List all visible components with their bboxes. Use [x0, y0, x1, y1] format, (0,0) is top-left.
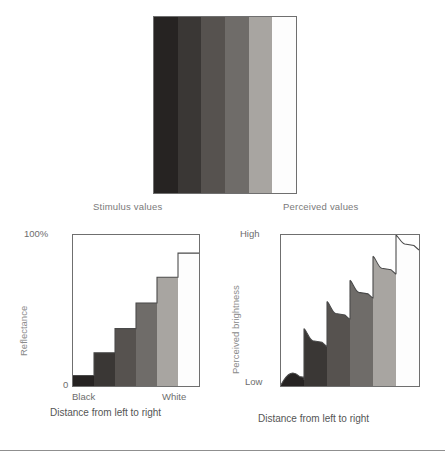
reflectance-x-axis-title: Distance from left to right [50, 407, 161, 418]
reflectance-bar-2 [94, 353, 115, 386]
reflectance-bar-4 [136, 303, 157, 386]
perceived-brightness-svg [281, 235, 419, 386]
reflectance-x-left-label: Black [72, 391, 95, 402]
stimulus-band-1 [154, 17, 178, 193]
stimulus-band-2 [178, 17, 202, 193]
reflectance-plot-area [72, 234, 200, 387]
stimulus-band-4 [225, 17, 249, 193]
caption-stimulus-values: Stimulus values [93, 201, 163, 212]
stimulus-band-5 [249, 17, 273, 193]
stimulus-band-6 [272, 17, 296, 193]
perceived-y-max-label: High [240, 228, 260, 239]
reflectance-step-svg [73, 235, 199, 386]
footer-divider [0, 450, 445, 451]
mach-bands-figure: Stimulus values Perceived values 100% 0 … [0, 0, 445, 461]
reflectance-bar-6 [178, 253, 199, 386]
perceived-y-axis-title: Perceived brightness [230, 285, 241, 374]
reflectance-bar-5 [157, 277, 178, 386]
reflectance-y-min-label: 0 [63, 379, 68, 390]
perceived-band-6 [396, 235, 419, 386]
reflectance-y-max-label: 100% [24, 228, 48, 239]
perceived-band-5 [373, 256, 396, 386]
reflectance-bar-3 [115, 329, 136, 386]
perceived-band-4 [350, 280, 373, 386]
reflectance-y-axis-title: Reflectance [18, 306, 29, 356]
perceived-brightness-plot-area [280, 234, 420, 387]
caption-perceived-values: Perceived values [283, 201, 359, 212]
stimulus-grayscale-strip [153, 16, 297, 194]
perceived-band-2 [304, 329, 327, 386]
reflectance-bar-1 [73, 375, 94, 386]
perceived-y-min-label: Low [245, 376, 262, 387]
reflectance-x-right-label: White [162, 391, 186, 402]
stimulus-band-3 [201, 17, 225, 193]
perceived-x-axis-title: Distance from left to right [258, 413, 369, 424]
